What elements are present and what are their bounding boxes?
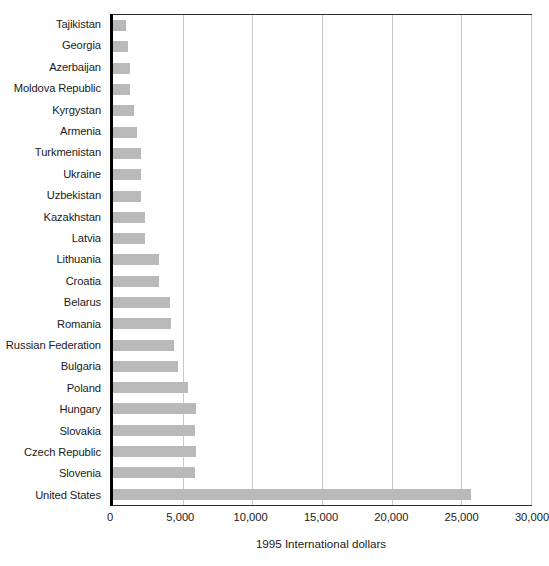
bar	[113, 318, 171, 329]
y-axis-label-row: Armenia	[0, 121, 106, 142]
bars-layer	[113, 15, 531, 505]
bar-row	[113, 228, 531, 249]
y-axis-label-row: Slovenia	[0, 463, 106, 484]
y-axis-label-text: Russian Federation	[6, 340, 101, 351]
y-axis-label-text: United States	[35, 490, 101, 501]
bar-row	[113, 100, 531, 121]
y-axis-label-row: Belarus	[0, 292, 106, 313]
y-axis-label-text: Hungary	[59, 404, 101, 415]
bar	[113, 233, 145, 244]
y-axis-label-row: Lithuania	[0, 249, 106, 270]
y-axis-label-row: Slovakia	[0, 420, 106, 441]
bar-row	[113, 15, 531, 36]
bar-row	[113, 334, 531, 355]
bar-row	[113, 207, 531, 228]
bar-row	[113, 377, 531, 398]
bar	[113, 340, 174, 351]
gridline	[531, 15, 532, 505]
y-axis-label-row: Uzbekistan	[0, 185, 106, 206]
bar-row	[113, 79, 531, 100]
plot-area	[110, 14, 532, 506]
bar-row	[113, 271, 531, 292]
bar	[113, 361, 178, 372]
y-axis-label-row: Poland	[0, 378, 106, 399]
bar-row	[113, 185, 531, 206]
y-axis-label-row: Ukraine	[0, 164, 106, 185]
y-axis-label-text: Slovenia	[59, 468, 101, 479]
y-axis-label-text: Croatia	[66, 276, 101, 287]
y-axis-label-text: Ukraine	[63, 169, 101, 180]
y-axis-label-row: Latvia	[0, 228, 106, 249]
bar	[113, 148, 141, 159]
x-axis-tick-label: 15,000	[304, 512, 338, 523]
y-axis-label-row: Kyrgystan	[0, 100, 106, 121]
bar	[113, 254, 159, 265]
bar-row	[113, 441, 531, 462]
x-axis-title: 1995 International dollars	[110, 538, 532, 550]
bar	[113, 403, 196, 414]
y-axis-label-text: Armenia	[60, 126, 101, 137]
y-axis-label-row: Romania	[0, 313, 106, 334]
bar	[113, 446, 196, 457]
y-axis-label-text: Moldova Republic	[14, 83, 101, 94]
y-axis-label-row: Kazakhstan	[0, 207, 106, 228]
y-axis-label-text: Tajikistan	[56, 19, 101, 30]
bar	[113, 41, 128, 52]
x-axis-tick-label: 10,000	[234, 512, 268, 523]
y-axis-label-text: Georgia	[62, 40, 101, 51]
x-axis-tick-label: 30,000	[515, 512, 549, 523]
bar	[113, 63, 130, 74]
y-axis-label-row: Hungary	[0, 399, 106, 420]
bar-row	[113, 164, 531, 185]
bar-row	[113, 398, 531, 419]
bar	[113, 489, 471, 500]
y-axis-label-text: Czech Republic	[24, 447, 101, 458]
y-axis-label-text: Azerbaijan	[49, 62, 101, 73]
y-axis-label-row: Czech Republic	[0, 442, 106, 463]
bar	[113, 191, 141, 202]
bar-row	[113, 313, 531, 334]
y-axis-category-labels: TajikistanGeorgiaAzerbaijanMoldova Repub…	[0, 14, 106, 506]
bar-row	[113, 58, 531, 79]
x-axis-tick-label: 5,000	[166, 512, 194, 523]
bar-row	[113, 356, 531, 377]
y-axis-label-row: Moldova Republic	[0, 78, 106, 99]
y-axis-label-text: Turkmenistan	[35, 147, 101, 158]
y-axis-label-row: Bulgaria	[0, 356, 106, 377]
y-axis-label-text: Latvia	[72, 233, 101, 244]
bar	[113, 382, 188, 393]
y-axis-label-row: Azerbaijan	[0, 57, 106, 78]
bar-row	[113, 484, 531, 505]
bar-row	[113, 292, 531, 313]
y-axis-label-text: Uzbekistan	[47, 190, 101, 201]
y-axis-label-row: Croatia	[0, 271, 106, 292]
bar	[113, 276, 159, 287]
y-axis-label-row: United States	[0, 485, 106, 506]
bar	[113, 20, 126, 31]
bar	[113, 84, 130, 95]
bar-row	[113, 143, 531, 164]
bar	[113, 212, 145, 223]
y-axis-label-text: Belarus	[64, 297, 101, 308]
bar-row	[113, 121, 531, 142]
bar	[113, 297, 170, 308]
bar	[113, 169, 141, 180]
bar	[113, 105, 134, 116]
x-axis-tick-label: 20,000	[374, 512, 408, 523]
x-axis-tick-label: 0	[107, 512, 113, 523]
y-axis-label-row: Turkmenistan	[0, 142, 106, 163]
y-axis-label-text: Lithuania	[56, 254, 101, 265]
y-axis-label-row: Georgia	[0, 35, 106, 56]
bar-row	[113, 462, 531, 483]
y-axis-label-row: Tajikistan	[0, 14, 106, 35]
bar-row	[113, 36, 531, 57]
y-axis-label-text: Slovakia	[60, 426, 102, 437]
y-axis-label-text: Bulgaria	[61, 361, 101, 372]
x-axis-tick-label: 25,000	[445, 512, 479, 523]
bar	[113, 467, 195, 478]
x-axis-tick-labels: 05,00010,00015,00020,00025,00030,000	[110, 512, 532, 530]
y-axis-label-row: Russian Federation	[0, 335, 106, 356]
y-axis-label-text: Kyrgystan	[52, 105, 101, 116]
y-axis-label-text: Romania	[57, 319, 101, 330]
